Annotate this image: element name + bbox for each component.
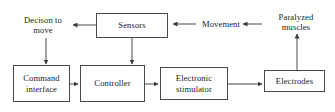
label-decision-to-move: Decison to move xyxy=(10,12,76,38)
node-electrodes[interactable]: Electrodes xyxy=(264,70,325,92)
node-sensors[interactable]: Sensors xyxy=(96,13,168,38)
label-movement: Movement xyxy=(198,17,244,31)
block-diagram: Decison to move Sensors Movement Paralyz… xyxy=(0,0,335,112)
label-paralyzed-muscles: Paralyzed muscles xyxy=(265,9,327,35)
node-controller[interactable]: Controller xyxy=(80,65,145,102)
node-electronic-stimulator[interactable]: Electronic stimulator xyxy=(160,67,228,100)
node-command-interface[interactable]: Command interface xyxy=(13,65,70,102)
